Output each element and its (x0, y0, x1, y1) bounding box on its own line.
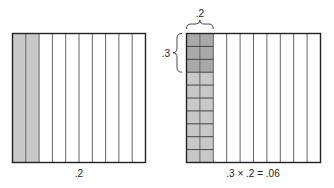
side-brace-icon (173, 34, 182, 73)
side-brace-label: .3 (162, 48, 171, 59)
right-caption: .3 × .2 = .06 (226, 168, 280, 179)
right-area-model: .2 .3 .3 × .2 = .06 (162, 8, 321, 179)
left-caption: .2 (75, 168, 84, 179)
top-brace-icon (187, 20, 214, 29)
right-column-lines (200, 34, 307, 163)
left-area-model: .2 (13, 34, 146, 180)
left-column-lines (26, 34, 132, 163)
top-brace-label: .2 (196, 8, 205, 19)
decimal-multiplication-diagram: .2 .2 (0, 0, 334, 188)
